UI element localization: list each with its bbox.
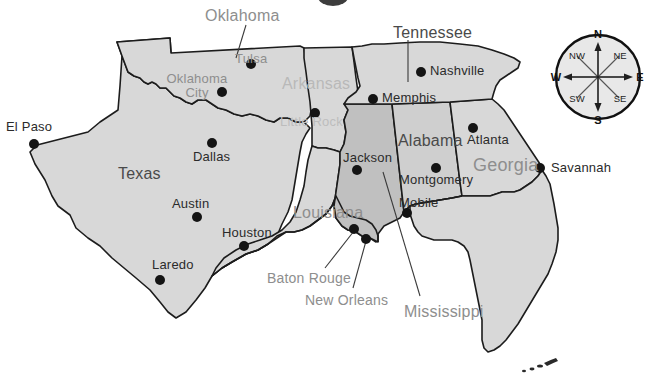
city-label-el-paso[interactable]: El Paso: [6, 120, 52, 133]
florida-keys: [522, 358, 558, 372]
compass-label-nw: NW: [569, 50, 585, 61]
compass-label-e: E: [636, 71, 643, 83]
city-dot-new-orleans[interactable]: [361, 234, 371, 244]
city-label-austin[interactable]: Austin: [172, 197, 209, 210]
top-edge-marker: [318, 0, 348, 6]
city-label-houston[interactable]: Houston: [222, 226, 272, 239]
compass-label-s: S: [594, 114, 601, 126]
leader-line-baton-rouge: [325, 231, 354, 268]
compass-label-n: N: [594, 28, 602, 40]
compass-label-sw: SW: [569, 93, 584, 104]
compass-label-w: W: [551, 71, 562, 83]
city-dot-laredo[interactable]: [155, 275, 165, 285]
city-label-new-orleans[interactable]: New Orleans: [305, 293, 388, 307]
map-canvas: N S W E NW NE SW SE Oklahoma Texas Arkan…: [0, 0, 655, 373]
compass-label-ne: NE: [613, 50, 626, 61]
city-label-oklahoma-city[interactable]: Oklahoma City: [166, 72, 228, 100]
map-geometry: N S W E NW NE SW SE: [0, 0, 655, 373]
state-label-oklahoma[interactable]: Oklahoma: [205, 8, 280, 24]
city-dot-jackson[interactable]: [352, 165, 362, 175]
city-dot-dallas[interactable]: [207, 138, 217, 148]
city-dot-nashville[interactable]: [416, 67, 426, 77]
state-label-georgia[interactable]: Georgia: [473, 156, 538, 174]
state-label-texas[interactable]: Texas: [118, 166, 161, 182]
state-label-alabama[interactable]: Alabama: [398, 133, 463, 149]
city-dot-memphis[interactable]: [368, 94, 378, 104]
city-label-atlanta[interactable]: Atlanta: [467, 133, 509, 146]
city-dot-houston[interactable]: [239, 241, 249, 251]
state-label-louisiana[interactable]: Louisiana: [293, 205, 363, 221]
state-label-tennessee[interactable]: Tennessee: [393, 25, 472, 41]
city-label-laredo[interactable]: Laredo: [152, 258, 194, 271]
city-label-montgomery[interactable]: Montgomery: [399, 173, 473, 186]
state-label-mississippi[interactable]: Mississippi: [404, 304, 484, 320]
city-label-oklahoma-city-line1: Oklahoma: [167, 71, 228, 86]
city-label-tulsa[interactable]: Tulsa: [235, 52, 267, 65]
city-dot-austin[interactable]: [192, 212, 202, 222]
city-dot-baton-rouge[interactable]: [349, 224, 359, 234]
city-label-jackson[interactable]: Jackson: [343, 151, 392, 164]
city-label-nashville[interactable]: Nashville: [430, 64, 485, 77]
state-label-arkansas[interactable]: Arkansas: [282, 76, 350, 92]
city-label-oklahoma-city-line2: City: [185, 85, 208, 100]
city-label-savannah[interactable]: Savannah: [551, 161, 611, 174]
compass-label-se: SE: [614, 93, 627, 104]
city-label-mobile[interactable]: Mobile: [399, 196, 439, 209]
city-label-memphis[interactable]: Memphis: [382, 91, 436, 104]
city-label-little-rock[interactable]: Little Rock: [280, 115, 343, 128]
city-label-dallas[interactable]: Dallas: [193, 150, 230, 163]
compass-rose[interactable]: N S W E NW NE SW SE: [551, 28, 644, 126]
leader-line-new-orleans: [353, 241, 366, 288]
city-dot-el-paso[interactable]: [29, 139, 39, 149]
city-label-baton-rouge[interactable]: Baton Rouge: [267, 271, 351, 285]
